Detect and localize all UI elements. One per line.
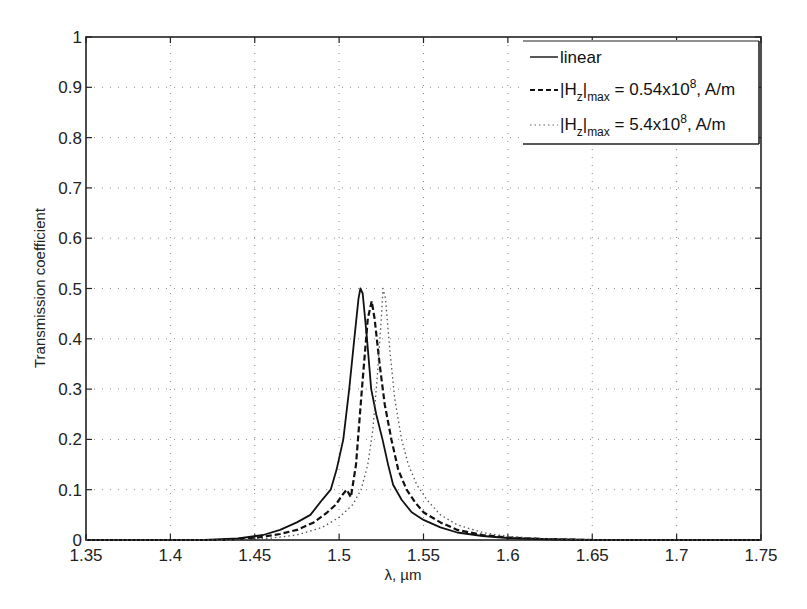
y-tick-label: 0.1 [58, 481, 82, 500]
y-tick-labels: 00.10.20.30.40.50.60.70.80.91 [58, 28, 82, 550]
curve-dashed [86, 301, 761, 540]
x-tick-label: 1.45 [238, 546, 271, 565]
y-tick-label: 0.5 [58, 280, 82, 299]
y-tick-label: 0.7 [58, 179, 82, 198]
transmission-chart: 1.351.41.451.51.551.61.651.71.75 00.10.2… [0, 0, 807, 609]
curves [86, 289, 761, 541]
x-tick-label: 1.7 [665, 546, 689, 565]
y-tick-label: 0.3 [58, 380, 82, 399]
x-tick-label: 1.65 [576, 546, 609, 565]
y-tick-label: 0.8 [58, 129, 82, 148]
legend-label-linear: linear [560, 48, 602, 67]
x-tick-label: 1.75 [744, 546, 777, 565]
legend: linear |Hz|max = 0.54x108, A/m |Hz|max =… [523, 40, 759, 144]
x-tick-label: 1.55 [407, 546, 440, 565]
curve-dotted [86, 289, 761, 541]
y-tick-label: 0.6 [58, 229, 82, 248]
y-tick-label: 1 [73, 28, 82, 47]
x-tick-label: 1.5 [327, 546, 351, 565]
curve-solid [86, 289, 761, 541]
y-tick-label: 0 [73, 531, 82, 550]
y-tick-label: 0.2 [58, 430, 82, 449]
y-tick-label: 0.4 [58, 330, 82, 349]
y-tick-label: 0.9 [58, 78, 82, 97]
x-axis-label: λ, µm [385, 566, 422, 583]
y-axis-label: Transmission coefficient [31, 207, 48, 368]
x-tick-labels: 1.351.41.451.51.551.61.651.71.75 [69, 546, 777, 565]
x-tick-label: 1.4 [159, 546, 183, 565]
x-tick-label: 1.6 [496, 546, 520, 565]
